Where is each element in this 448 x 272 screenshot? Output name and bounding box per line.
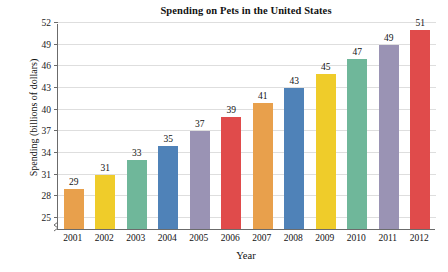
axis-break-icon: [53, 219, 65, 232]
y-tick-label: 40: [42, 105, 52, 115]
bar-value-label: 37: [195, 119, 205, 129]
y-tick-label: 43: [42, 83, 52, 93]
x-tick-label: 2006: [221, 233, 240, 243]
plot-area: 25283134374043464952 2931333537394143454…: [57, 24, 435, 230]
bar-value-label: 31: [101, 163, 111, 173]
bar: 49: [379, 45, 399, 229]
x-tick-label: 2010: [347, 233, 366, 243]
bar-chart: Spending on Pets in the United States Sp…: [0, 0, 448, 272]
bar: 51: [410, 30, 430, 229]
y-tick-mark: [54, 174, 58, 175]
bar: 43: [284, 88, 304, 229]
bar: 35: [158, 146, 178, 229]
y-tick-label: 31: [42, 170, 52, 180]
bar: 39: [221, 117, 241, 229]
bar: 31: [95, 175, 115, 229]
bar-value-label: 39: [227, 105, 237, 115]
bar-value-label: 49: [384, 33, 394, 43]
bar: 33: [127, 160, 147, 229]
chart-title: Spending on Pets in the United States: [57, 5, 435, 16]
x-tick-label: 2002: [95, 233, 114, 243]
y-tick-mark: [54, 130, 58, 131]
y-tick-label: 46: [42, 61, 52, 71]
x-tick-label: 2012: [410, 233, 429, 243]
bar-value-label: 43: [290, 76, 300, 86]
y-tick-mark: [54, 152, 58, 153]
x-tick-label: 2003: [126, 233, 145, 243]
x-tick-label: 2004: [158, 233, 177, 243]
y-tick-label: 49: [42, 40, 52, 50]
y-tick-mark: [54, 65, 58, 66]
bar: 41: [253, 103, 273, 229]
x-tick-label: 2011: [378, 233, 397, 243]
bar: 29: [64, 189, 84, 229]
bar-value-label: 51: [416, 18, 426, 28]
y-tick-label: 28: [42, 191, 52, 201]
x-axis-title: Year: [57, 250, 435, 261]
y-tick-label: 25: [42, 213, 52, 223]
x-tick-label: 2001: [63, 233, 82, 243]
x-tick-label: 2005: [189, 233, 208, 243]
y-tick-label: 37: [42, 126, 52, 136]
x-tick-label: 2007: [252, 233, 271, 243]
y-tick-mark: [54, 22, 58, 23]
y-tick-mark: [54, 195, 58, 196]
bar-value-label: 35: [164, 134, 174, 144]
y-tick-label: 52: [42, 18, 52, 28]
y-axis-title: Spending (billions of dollars): [28, 28, 39, 208]
y-tick-mark: [54, 109, 58, 110]
bar-value-label: 41: [258, 91, 268, 101]
bar: 37: [190, 131, 210, 229]
bar-value-label: 33: [132, 148, 142, 158]
y-tick-mark: [54, 44, 58, 45]
bar-value-label: 45: [321, 62, 331, 72]
gridline: [58, 22, 436, 23]
x-tick-label: 2008: [284, 233, 303, 243]
bar: 47: [347, 59, 367, 229]
x-tick-label: 2009: [315, 233, 334, 243]
y-tick-mark: [54, 87, 58, 88]
bar: 45: [316, 74, 336, 229]
bar-value-label: 47: [353, 47, 363, 57]
y-tick-label: 34: [42, 148, 52, 158]
bar-value-label: 29: [69, 177, 79, 187]
